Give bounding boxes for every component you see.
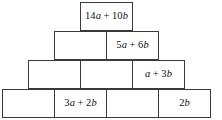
pyramid-row-2: 5a+6b xyxy=(54,31,159,60)
pyramid-cell-r3c1 xyxy=(28,60,81,89)
pyramid-cell-r4c1 xyxy=(2,89,55,118)
expression-a-plus-3b: a+3b xyxy=(145,69,172,80)
expression-3a-plus-2b: 3a+2b xyxy=(64,98,96,109)
expression-14a-plus-10b: 14a+10b xyxy=(85,11,128,22)
pyramid-row-3: a+3b xyxy=(28,60,185,89)
pyramid-row-1: 14a+10b xyxy=(80,2,133,31)
pyramid-row-4: 3a+2b 2b xyxy=(2,89,211,118)
pyramid-cell-r2c2: 5a+6b xyxy=(106,31,159,60)
expression-5a-plus-6b: 5a+6b xyxy=(116,40,148,51)
pyramid-cell-r3c2 xyxy=(80,60,133,89)
expression-2b: 2b xyxy=(179,98,190,109)
pyramid-cell-r4c4: 2b xyxy=(158,89,211,118)
pyramid-cell-r4c2: 3a+2b xyxy=(54,89,107,118)
pyramid-cell-r1c1: 14a+10b xyxy=(80,2,133,31)
pyramid-cell-r3c3: a+3b xyxy=(132,60,185,89)
algebra-pyramid-diagram: 14a+10b 5a+6b a+3b 3a+2b 2b xyxy=(0,0,222,120)
pyramid-cell-r4c3 xyxy=(106,89,159,118)
pyramid-cell-r2c1 xyxy=(54,31,107,60)
